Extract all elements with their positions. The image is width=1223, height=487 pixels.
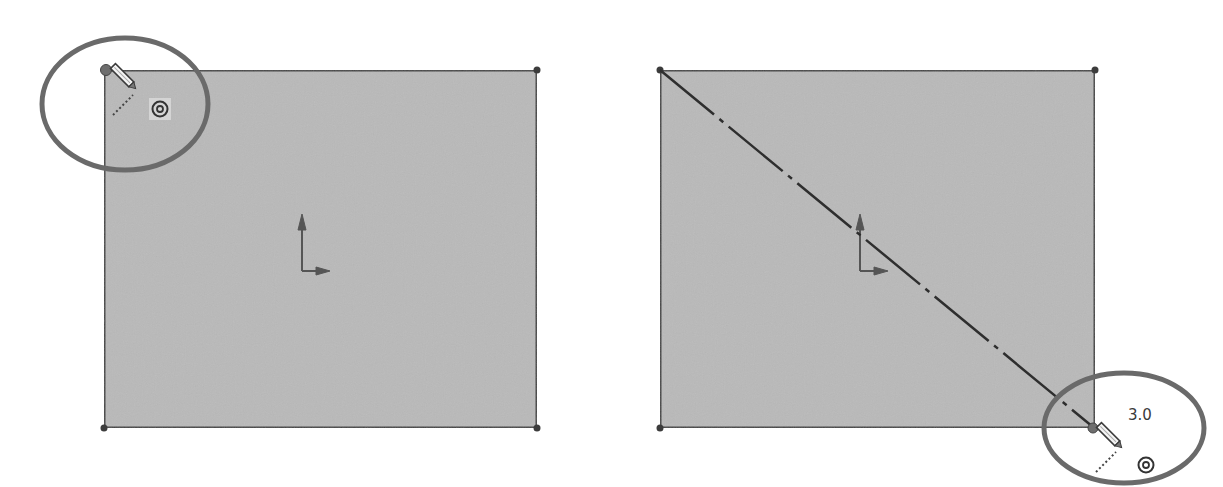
vertex-point-bottom-left[interactable]	[657, 425, 664, 432]
dotted-guide-line	[1096, 452, 1116, 472]
start-point-marker	[101, 65, 112, 76]
sketch-canvas: 3.0	[0, 0, 1223, 487]
concentric-circle-snap-icon	[149, 98, 171, 120]
sketch-rectangle-left[interactable]	[104, 70, 537, 428]
vertex-point-bottom-right[interactable]	[534, 425, 541, 432]
vertex-point-top-right[interactable]	[534, 67, 541, 74]
concentric-circle-snap-icon	[1139, 458, 1154, 473]
vertex-point-top-right[interactable]	[1092, 67, 1099, 74]
pencil-cursor-icon	[1097, 423, 1125, 451]
vertex-point-bottom-left[interactable]	[101, 425, 108, 432]
right-panel: 3.0	[657, 67, 1205, 484]
dimension-label: 3.0	[1128, 406, 1152, 424]
left-panel	[42, 38, 541, 432]
